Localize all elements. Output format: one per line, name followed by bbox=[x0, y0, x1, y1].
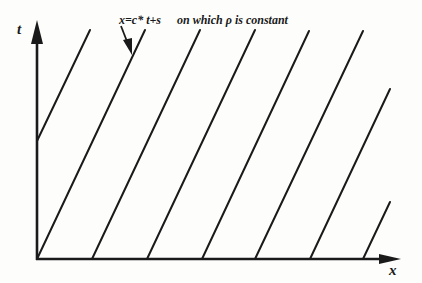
characteristic-line bbox=[202, 31, 309, 259]
characteristic-line bbox=[147, 30, 255, 259]
t-axis-arrowhead-icon bbox=[31, 20, 43, 44]
characteristic-line bbox=[363, 202, 390, 259]
annotation-text: on which ρ is constant bbox=[177, 13, 288, 27]
characteristic-line bbox=[37, 30, 145, 259]
t-axis-label: t bbox=[17, 21, 21, 38]
x-axis-label: x bbox=[389, 262, 397, 279]
characteristics-figure: t x x=c* t+s on which ρ is constant bbox=[0, 0, 422, 283]
annotation-equation: x=c* t+s bbox=[119, 13, 161, 27]
characteristic-line bbox=[37, 30, 90, 141]
characteristic-line bbox=[310, 89, 390, 259]
annotation-pointer-arrowhead-icon bbox=[123, 38, 132, 55]
diagram-canvas bbox=[0, 0, 422, 283]
characteristic-lines bbox=[37, 30, 390, 259]
characteristic-line bbox=[92, 30, 200, 259]
characteristic-line bbox=[255, 31, 363, 259]
annotation-label: x=c* t+s on which ρ is constant bbox=[119, 13, 288, 28]
